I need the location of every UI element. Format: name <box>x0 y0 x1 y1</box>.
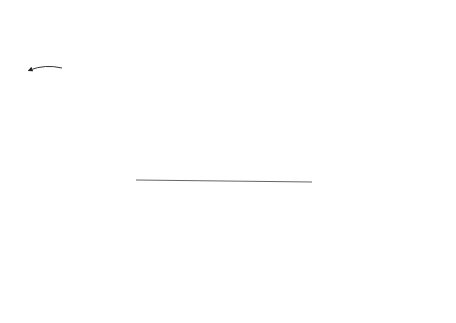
galaxy-encounter-diagram <box>0 0 456 323</box>
spin-arrow-icon <box>30 66 62 70</box>
row-separator <box>136 180 312 182</box>
